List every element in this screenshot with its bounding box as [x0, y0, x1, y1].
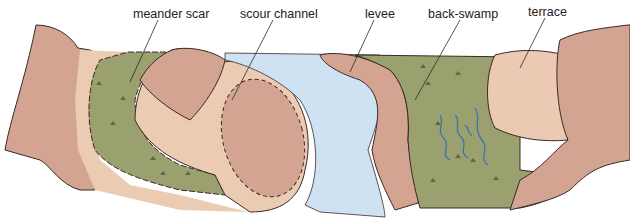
label-scour-channel: scour channel	[240, 7, 318, 21]
terrace-region	[488, 50, 569, 140]
label-terrace: terrace	[528, 5, 567, 19]
label-levee: levee	[365, 7, 395, 21]
floodplain-diagram: meander scar scour channel levee back-sw…	[0, 0, 630, 223]
label-meander-scar: meander scar	[133, 7, 209, 21]
floodplain-illustration	[0, 0, 630, 223]
label-back-swamp: back-swamp	[428, 7, 498, 21]
